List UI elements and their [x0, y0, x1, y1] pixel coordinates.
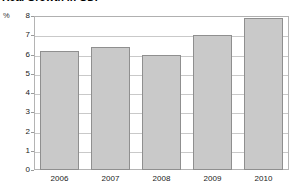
- y-axis-tick-mark: [31, 74, 34, 75]
- chart-title: Real Growth in GDP: [2, 0, 102, 3]
- y-axis-tick-label: 3: [4, 108, 30, 116]
- x-axis-tick-label: 2006: [34, 174, 85, 183]
- y-axis-tick-mark: [31, 151, 34, 152]
- bar-2006: [40, 51, 80, 170]
- y-axis-tick-mark: [31, 93, 34, 94]
- bar-2007: [91, 47, 131, 170]
- x-axis-tick-label: 2009: [187, 174, 238, 183]
- y-axis-tick-label: 2: [4, 128, 30, 136]
- y-axis-tick-label: 4: [4, 89, 30, 97]
- y-axis-tick-label: 8: [4, 12, 30, 20]
- y-axis-tick-mark: [31, 170, 34, 171]
- y-axis-tick-mark: [31, 112, 34, 113]
- bar-2008: [142, 55, 182, 171]
- y-axis-tick-label: 1: [4, 147, 30, 155]
- y-axis-tick-label: 0: [4, 166, 30, 174]
- y-axis-tick-label: 5: [4, 70, 30, 78]
- y-axis-tick-mark: [31, 132, 34, 133]
- y-axis-tick-label: 6: [4, 51, 30, 59]
- bar-2010: [244, 18, 284, 170]
- chart-figure: Real Growth in GDP % 012345678 200620072…: [0, 0, 292, 191]
- x-axis-tick-label: 2007: [85, 174, 136, 183]
- x-axis-tick-label: 2008: [136, 174, 187, 183]
- y-axis-tick-label: 7: [4, 31, 30, 39]
- y-axis-tick-mark: [31, 35, 34, 36]
- y-axis-tick-mark: [31, 16, 34, 17]
- x-axis-tick-label: 2010: [238, 174, 289, 183]
- y-axis-tick-mark: [31, 55, 34, 56]
- bar-2009: [193, 35, 233, 170]
